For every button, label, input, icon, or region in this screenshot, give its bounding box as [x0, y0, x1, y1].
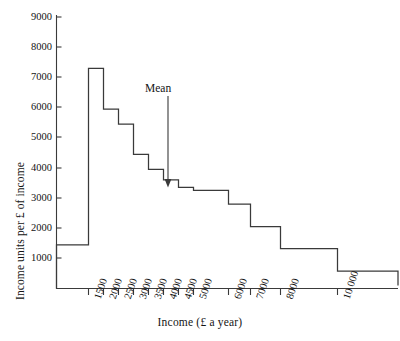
histogram-figure: Income units per £ of income 9000 8000 7… [0, 0, 400, 341]
x-tick-label: 5000 [197, 277, 214, 300]
x-axis-title: Income (£ a year) [0, 316, 400, 328]
x-tick-label: 10 000 [341, 270, 360, 301]
x-tick-label: 8000 [284, 277, 301, 300]
x-axis-tick-labels: 1500 2000 2500 3000 3500 4000 4500 5000 … [0, 0, 400, 341]
x-tick-label: 6000 [232, 277, 249, 300]
x-tick-label: 7000 [254, 277, 271, 300]
